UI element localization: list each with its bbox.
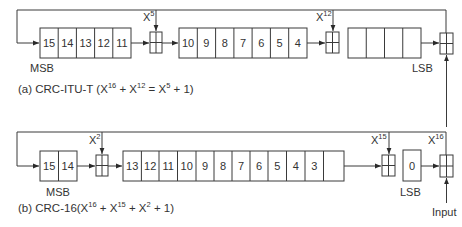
register-cell: 15	[43, 37, 55, 49]
register-group-a3	[348, 28, 421, 58]
diagram-b-crc-16: 15 14 MSB X2 13 12	[17, 132, 456, 218]
xor-gate-x15	[382, 155, 395, 176]
register-cell: 12	[144, 160, 156, 172]
register-cell: 6	[256, 160, 262, 172]
xor-gate-x5	[150, 32, 162, 53]
caption-a: (a) CRC-ITU-T (X16 + X12 = X5 + 1)	[18, 81, 194, 95]
register-cell: 11	[116, 37, 127, 49]
register-cell: 13	[126, 160, 138, 172]
tap-label-x12: X12	[316, 9, 332, 23]
tap-label-x15: X15	[371, 132, 387, 146]
register-cell: 14	[61, 37, 73, 49]
register-cell: 14	[62, 160, 74, 172]
register-cell: 4	[293, 160, 299, 172]
register-cell: 8	[222, 37, 228, 49]
register-cell: 8	[220, 160, 226, 172]
tap-label-x2: X2	[89, 132, 101, 146]
register-cell: 5	[274, 160, 280, 172]
register-cell: 15	[43, 160, 55, 172]
msb-label: MSB	[46, 186, 70, 198]
diagram-a-crc-itu-t: 15 14 13 12 11 MSB X5 10 9 8	[17, 9, 453, 127]
caption-b: (b) CRC-16(X16 + X15 + X2 + 1)	[18, 200, 174, 214]
register-group-b1: 15 14	[40, 151, 77, 181]
tap-label-x5: X5	[143, 9, 155, 23]
register-cell: 10	[181, 160, 193, 172]
xor-gate-x16-b	[440, 155, 453, 177]
register-cell: 13	[79, 37, 91, 49]
register-group-a2: 10 9 8 7 6 5 4	[179, 28, 307, 58]
register-group-a1: 15 14 13 12 11	[40, 28, 131, 58]
register-cell: 7	[238, 160, 244, 172]
lsb-label: LSB	[400, 186, 421, 198]
register-cell: 3	[311, 160, 317, 172]
register-cell: 4	[295, 37, 301, 49]
xor-gate-x12	[326, 32, 339, 53]
xor-gate-x2	[96, 155, 108, 176]
register-cell: 12	[98, 37, 110, 49]
register-group-b2: 13 12 11 10 9 8 7 6 5 4 3 2	[123, 151, 344, 181]
lsb-label: LSB	[412, 62, 433, 74]
register-cell: 5	[277, 37, 283, 49]
crc-diagram: 15 14 13 12 11 MSB X5 10 9 8	[0, 0, 462, 227]
msb-label: MSB	[30, 62, 54, 74]
register-cell: 0	[409, 160, 415, 172]
register-cell: 6	[258, 37, 264, 49]
register-cell: 9	[203, 37, 209, 49]
register-cell: 7	[240, 37, 246, 49]
register-group-b3: 0	[403, 150, 421, 181]
tap-label-x16: X16	[428, 132, 444, 146]
register-cell: 11	[162, 160, 173, 172]
input-label: Input	[432, 206, 456, 218]
register-cell: 10	[182, 37, 194, 49]
xor-gate-x16-a	[440, 33, 453, 54]
register-cell: 9	[202, 160, 208, 172]
